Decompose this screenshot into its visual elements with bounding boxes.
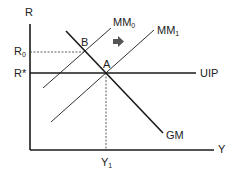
- tick-y1: Y1: [101, 157, 112, 169]
- label-uip: UIP: [200, 68, 218, 79]
- point-b-label: B: [81, 37, 88, 48]
- label-mm1: MM1: [157, 25, 179, 37]
- tick-r0: R0: [14, 46, 26, 58]
- tick-rstar: R*: [14, 68, 26, 79]
- label-mm0: MM0: [113, 17, 135, 29]
- x-axis-label: Y: [218, 144, 225, 155]
- mm0-curve: [43, 28, 111, 88]
- label-gm: GM: [166, 130, 184, 141]
- shift-right-arrow-icon: [113, 36, 124, 47]
- point-a-label: A: [103, 59, 110, 70]
- y-axis-label: R: [25, 7, 33, 18]
